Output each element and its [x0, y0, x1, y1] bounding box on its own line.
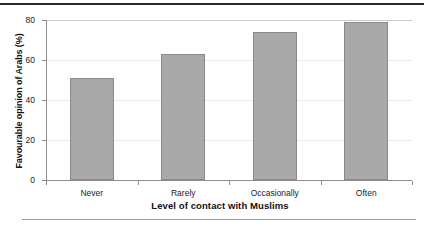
- bar: [344, 22, 388, 180]
- y-tick-label: 20: [26, 135, 35, 145]
- y-tick-mark: 60: [42, 60, 46, 61]
- x-axis-title: Level of contact with Muslims: [30, 200, 410, 211]
- bottom-divider-rule: [22, 219, 416, 220]
- x-category-label: Occasionally: [251, 188, 299, 198]
- x-category-label: Rarely: [171, 188, 196, 198]
- y-tick-label: 40: [26, 95, 35, 105]
- y-tick-mark: 20: [42, 140, 46, 141]
- y-tick-label: 80: [26, 15, 35, 25]
- bar: [253, 32, 297, 180]
- y-tick-mark: 80: [42, 20, 46, 21]
- x-tick-mark: [321, 181, 322, 185]
- top-divider-rule: [0, 3, 424, 5]
- x-tick-mark: [412, 181, 413, 185]
- bar: [161, 54, 205, 180]
- y-tick-mark: 40: [42, 100, 46, 101]
- x-category-label: Never: [80, 188, 103, 198]
- x-category-label: Often: [356, 188, 377, 198]
- x-tick-mark: [138, 181, 139, 185]
- plot-top-border: [47, 20, 412, 21]
- y-tick-label: 60: [26, 55, 35, 65]
- x-tick-mark: [46, 181, 47, 185]
- plot-area: 020406080 NeverRarelyOccasionallyOften: [46, 20, 412, 181]
- y-tick-label: 0: [30, 175, 35, 185]
- x-tick-mark: [229, 181, 230, 185]
- y-axis-title: Favourable opinion of Arabs (%): [14, 16, 24, 186]
- figure-container: Favourable opinion of Arabs (%) 02040608…: [0, 0, 424, 231]
- bar: [70, 78, 114, 180]
